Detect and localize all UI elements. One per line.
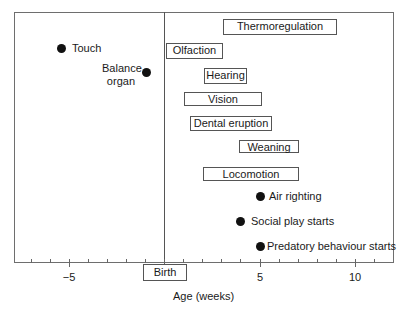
bar-olfaction: Olfaction [166, 43, 223, 59]
bar-dental-eruption: Dental eruption [190, 116, 272, 131]
x-tick-major [260, 259, 261, 267]
x-tick-label-minus5: −5 [63, 271, 76, 283]
x-tick-label-5: 5 [257, 271, 263, 283]
x-tick-minor [317, 259, 318, 263]
point-air-righting-marker [256, 192, 265, 201]
x-tick-minor [240, 259, 241, 263]
point-balance-organ-label-2: organ [102, 75, 135, 88]
bar-weaning: Weaning [239, 140, 299, 153]
point-touch-marker [57, 44, 66, 53]
birth-reference-line [164, 12, 165, 263]
developmental-timeline-chart: Thermoregulation Olfaction Hearing Visio… [0, 0, 407, 312]
x-tick-minor [88, 259, 89, 263]
x-tick-minor [183, 259, 184, 263]
bar-thermoregulation: Thermoregulation [223, 19, 337, 35]
x-tick-minor [221, 259, 222, 263]
x-tick-minor [126, 259, 127, 263]
point-balance-organ-marker [142, 68, 151, 77]
point-predatory-marker [256, 242, 265, 251]
x-axis-label: Age (weeks) [173, 290, 234, 302]
x-tick-minor [279, 259, 280, 263]
x-tick-minor [336, 259, 337, 263]
x-tick-minor [145, 259, 146, 263]
x-tick-minor [298, 259, 299, 263]
x-tick-minor [202, 259, 203, 263]
x-tick-minor [31, 259, 32, 263]
point-air-righting-label: Air righting [269, 190, 322, 203]
birth-label-box: Birth [143, 264, 187, 281]
x-tick-label-10: 10 [349, 271, 361, 283]
point-social-play-marker [236, 217, 245, 226]
bar-locomotion: Locomotion [203, 167, 299, 181]
point-touch-label: Touch [72, 42, 101, 55]
x-tick-major [69, 259, 70, 267]
bar-vision: Vision [184, 92, 262, 106]
bar-hearing: Hearing [204, 68, 247, 84]
x-tick-minor [374, 259, 375, 263]
point-predatory-label: Predatory behaviour starts [267, 240, 396, 253]
point-balance-organ-label-1: Balance [102, 62, 138, 75]
point-social-play-label: Social play starts [251, 215, 334, 228]
x-tick-major [355, 259, 356, 267]
x-tick-minor [50, 259, 51, 263]
x-tick-minor [107, 259, 108, 263]
